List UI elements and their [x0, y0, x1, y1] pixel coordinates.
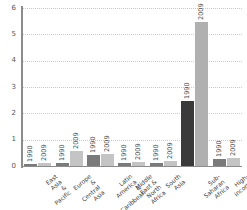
x-axis-category: South Asia: [148, 168, 179, 210]
bar-year-label: 1990: [150, 137, 163, 161]
bar-slot: 1990: [150, 8, 163, 166]
bar[interactable]: [70, 151, 83, 166]
y-axis-tick-label: 0: [2, 163, 16, 170]
bar-group: 19902009: [22, 8, 53, 166]
bar[interactable]: [164, 161, 177, 166]
x-axis-category: Sub-Saharan Africa: [179, 168, 210, 210]
bar[interactable]: [213, 159, 226, 166]
bar-year-label: 2009: [195, 0, 208, 20]
bar-group: 19902009: [179, 8, 210, 166]
bar-group: 19902009: [85, 8, 116, 166]
x-axis-category-label: High-income: [228, 173, 247, 198]
bar[interactable]: [38, 163, 51, 166]
bar-slot: 1990: [181, 8, 194, 166]
bar-year-label: 2009: [70, 125, 83, 149]
bar-slot: 2009: [70, 8, 83, 166]
bar-year-label: 1990: [87, 129, 100, 153]
bar-slot: 1990: [56, 8, 69, 166]
y-axis-tick-label: 4: [2, 57, 16, 64]
x-axis-category-labels: East Asia & PacificEurope & Central Asia…: [22, 168, 242, 210]
bar[interactable]: [227, 158, 240, 166]
bar-slot: 2009: [164, 8, 177, 166]
bar-group: 19902009: [53, 8, 84, 166]
bar-groups: 1990200919902009199020091990200919902009…: [22, 8, 242, 166]
bar[interactable]: [132, 162, 145, 166]
x-axis-category: East Asia & Pacific: [22, 168, 53, 210]
y-axis-tick-label: 6: [2, 5, 16, 12]
bar-year-label: 1990: [56, 137, 69, 161]
bar[interactable]: [87, 155, 100, 166]
bar[interactable]: [118, 163, 131, 166]
bar-slot: 2009: [101, 8, 114, 166]
bar-group: 19902009: [211, 8, 242, 166]
bar-slot: 1990: [24, 8, 37, 166]
y-axis-tick-label: 2: [2, 110, 16, 117]
x-axis-category: Europe & Central Asia: [53, 168, 84, 210]
bar-group: 19902009: [148, 8, 179, 166]
bar-slot: 1990: [213, 8, 226, 166]
bar-year-label: 1990: [213, 133, 226, 157]
bar[interactable]: [195, 22, 208, 166]
bar-year-label: 1990: [118, 137, 131, 161]
bar[interactable]: [150, 163, 163, 166]
bar[interactable]: [181, 101, 194, 166]
x-axis-line: [21, 166, 242, 167]
bar-year-label: 2009: [164, 135, 177, 159]
bar-slot: 1990: [87, 8, 100, 166]
bar-slot: 2009: [132, 8, 145, 166]
bar-chart: 0123456 19902009199020091990200919902009…: [0, 0, 247, 210]
bar-slot: 2009: [38, 8, 51, 166]
bar-year-label: 1990: [24, 138, 37, 162]
bar-slot: 2009: [227, 8, 240, 166]
y-axis-tick-label: 5: [2, 31, 16, 38]
x-axis-category: High-income: [211, 168, 242, 210]
bar-year-label: 2009: [132, 136, 145, 160]
bar[interactable]: [101, 154, 114, 166]
x-axis-category: Latin America & Caribbean: [85, 168, 116, 210]
x-axis-category: Middle East & North Africa: [116, 168, 147, 210]
bar[interactable]: [24, 164, 37, 166]
bar-year-label: 2009: [101, 128, 114, 152]
y-axis-tick-label: 3: [2, 84, 16, 91]
bar-year-label: 2009: [38, 137, 51, 161]
bar-slot: 1990: [118, 8, 131, 166]
y-axis-tick-label: 1: [2, 136, 16, 143]
bar-year-label: 2009: [227, 132, 240, 156]
bar[interactable]: [56, 163, 69, 166]
bar-group: 19902009: [116, 8, 147, 166]
bar-slot: 2009: [195, 8, 208, 166]
bar-year-label: 1990: [181, 75, 194, 99]
